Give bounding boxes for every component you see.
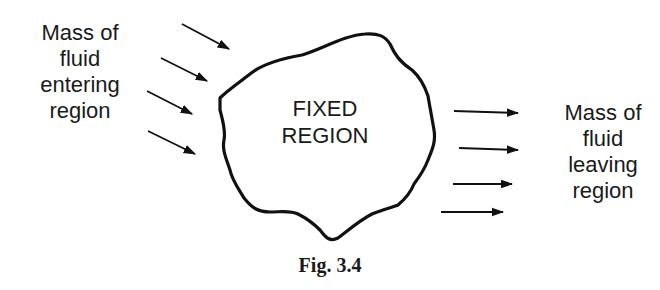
inflow-arrow-icon (161, 58, 207, 81)
inflow-arrow-icon (182, 24, 229, 49)
inflow-arrow-icon (147, 91, 192, 114)
outflow-arrow-icon (459, 148, 518, 150)
outflow-label: Mass of fluid leaving region (548, 100, 658, 204)
outflow-label-line: leaving (548, 152, 658, 178)
outflow-label-line: Mass of (548, 100, 658, 126)
figure-caption: Fig. 3.4 (0, 254, 660, 277)
outflow-arrows (441, 111, 518, 212)
region-label-line: FIXED (255, 95, 395, 122)
outflow-label-line: fluid (548, 126, 658, 152)
region-label-line: REGION (255, 122, 395, 149)
inflow-label-line: fluid (30, 46, 130, 72)
outflow-arrow-icon (454, 111, 518, 113)
inflow-label-line: Mass of (30, 20, 130, 46)
outflow-label-line: region (548, 178, 658, 204)
inflow-label-line: entering (30, 72, 130, 98)
inflow-arrow-icon (148, 131, 195, 154)
inflow-label: Mass of fluid entering region (30, 20, 130, 124)
inflow-label-line: region (30, 98, 130, 124)
region-label: FIXED REGION (255, 95, 395, 149)
inflow-arrows (147, 24, 229, 154)
